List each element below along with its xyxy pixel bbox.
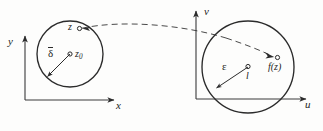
- delta-overbar: [48, 47, 53, 48]
- v-axis-label: v: [204, 6, 209, 17]
- mapping-dashed-curve: [82, 24, 226, 38]
- fz-point-label: f(z): [268, 62, 281, 72]
- l-point-label: l: [246, 71, 249, 81]
- figure-epsilon-delta-limit: y x z z0 δ v u f(z) l ε: [0, 0, 323, 131]
- delta-glyph: δ: [48, 47, 53, 59]
- z-point-label: z: [68, 22, 72, 32]
- z-point-marker: [77, 26, 81, 30]
- u-axis-label: u: [305, 99, 311, 110]
- l-point-marker: [246, 64, 250, 68]
- delta-radius-label: δ: [48, 48, 53, 59]
- mapping-dashed-curve-2: [226, 38, 273, 56]
- z0-point-label: z0: [75, 49, 83, 61]
- fz-point-marker: [275, 55, 279, 59]
- y-axis-label: y: [8, 36, 13, 47]
- mapping-arrowhead-at-fz: [265, 52, 274, 58]
- x-axis-label: x: [116, 100, 121, 111]
- epsilon-radius-label: ε: [222, 61, 227, 72]
- z0-subscript: 0: [79, 53, 83, 61]
